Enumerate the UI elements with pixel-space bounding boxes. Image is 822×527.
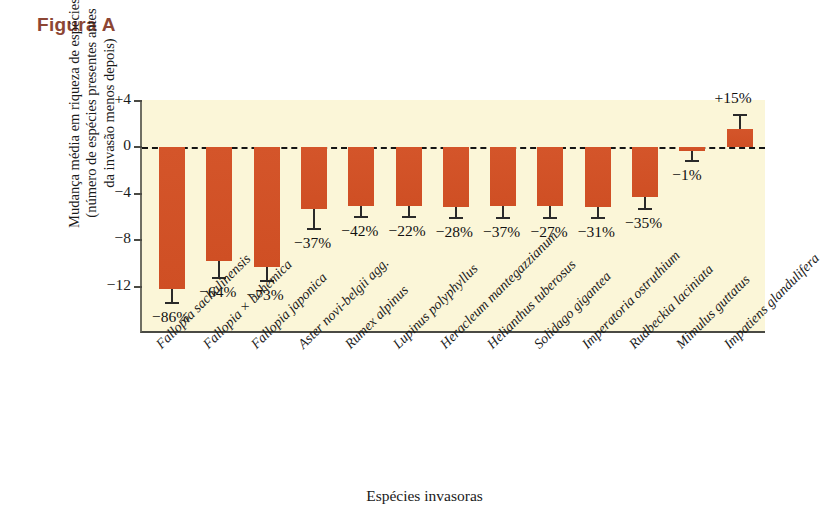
error-bar-cap xyxy=(496,217,510,219)
bar-value-label: −37% xyxy=(294,234,331,252)
bar[interactable] xyxy=(632,147,658,197)
bar-value-label: −37% xyxy=(483,223,520,241)
error-bar-line xyxy=(171,289,173,303)
bar[interactable] xyxy=(490,147,516,205)
error-bar-cap xyxy=(685,160,699,162)
x-axis-title: Espécies invasoras xyxy=(0,487,789,505)
bar[interactable] xyxy=(159,147,185,289)
y-tick-label: −12 xyxy=(97,276,131,294)
y-axis-tick xyxy=(134,193,142,195)
bar[interactable] xyxy=(443,147,469,206)
bar-value-label: −22% xyxy=(389,222,426,240)
bar-value-label: −31% xyxy=(578,223,615,241)
error-bar-cap xyxy=(591,217,605,219)
bar-value-label: −42% xyxy=(341,222,378,240)
error-bar-cap xyxy=(543,217,557,219)
bar[interactable] xyxy=(727,129,753,148)
y-axis-tick xyxy=(134,146,142,148)
y-axis-title-line-3: da invasão menos depois) xyxy=(101,38,119,187)
bar-value-label: −35% xyxy=(625,214,662,232)
error-bar-cap xyxy=(638,208,652,210)
error-bar-cap xyxy=(402,216,416,218)
bar[interactable] xyxy=(348,147,374,205)
bar[interactable] xyxy=(585,147,611,206)
error-bar-cap xyxy=(449,217,463,219)
error-bar-cap xyxy=(354,216,368,218)
y-tick-label: +4 xyxy=(97,90,131,108)
bar-value-label: −28% xyxy=(436,223,473,241)
error-bar-line xyxy=(739,115,741,129)
bar[interactable] xyxy=(537,147,563,205)
bar[interactable] xyxy=(254,147,280,267)
error-bar-cap xyxy=(733,114,747,116)
bar-value-label: −1% xyxy=(672,166,701,184)
x-axis-title-text: Espécies invasoras xyxy=(306,487,483,504)
y-axis-title-line-1: Mudança média em riqueza de espécies xyxy=(66,0,84,228)
bar[interactable] xyxy=(206,147,232,261)
bar-value-label: +15% xyxy=(715,89,752,107)
error-bar-cap xyxy=(165,302,179,304)
bar[interactable] xyxy=(396,147,422,205)
y-tick-label: −4 xyxy=(97,183,131,201)
y-axis-title: Mudança média em riqueza de espécies (nú… xyxy=(62,0,122,268)
y-tick-label: 0 xyxy=(97,136,131,154)
y-tick-label: −8 xyxy=(97,229,131,247)
error-bar-line xyxy=(313,209,315,229)
y-axis-tick xyxy=(134,100,142,102)
error-bar-cap xyxy=(307,228,321,230)
y-axis-tick xyxy=(134,286,142,288)
y-axis-tick xyxy=(134,239,142,241)
bar[interactable] xyxy=(301,147,327,209)
